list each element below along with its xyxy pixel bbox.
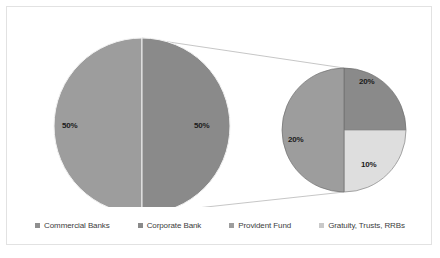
pie-chart-graphic [7,7,433,207]
breakout-slice-label-corporate-bank: 20% [359,77,374,86]
main-slice-label-corporate-bank: 50% [194,121,209,130]
legend-marker-icon-provident-fund [229,223,234,228]
legend-item-commercial-banks[interactable]: Commercial Banks [35,221,110,230]
legend-item-gratuity-trusts-rrbs[interactable]: Gratuity, Trusts, RRBs [319,221,405,230]
plot-area: 50% 50% 20% 20% 10% [7,7,433,207]
breakout-slice-label-provident-fund: 20% [288,135,303,144]
legend-label-corporate-bank: Corporate Bank [147,221,202,230]
breakout-slice-corporate-bank[interactable] [344,68,406,130]
legend-label-gratuity-trusts-rrbs: Gratuity, Trusts, RRBs [328,221,405,230]
main-slice-label-commercial-banks: 50% [62,121,77,130]
main-slice-corporate-bank[interactable] [142,38,230,207]
legend-item-provident-fund[interactable]: Provident Fund [229,221,291,230]
legend-item-corporate-bank[interactable]: Corporate Bank [138,221,202,230]
breakout-slice-provident-fund[interactable] [282,68,344,192]
breakout-slice-label-gratuity-trusts-rrbs: 10% [361,160,376,169]
legend-marker-icon-corporate-bank [138,223,143,228]
legend-label-commercial-banks: Commercial Banks [44,221,110,230]
legend-marker-icon-commercial-banks [35,223,40,228]
chart-legend: Commercial Banks Corporate Bank Providen… [7,221,433,230]
legend-label-provident-fund: Provident Fund [238,221,291,230]
chart-frame: 50% 50% 20% 20% 10% Commercial Banks Cor… [6,6,432,245]
legend-marker-icon-gratuity-trusts-rrbs [319,223,324,228]
